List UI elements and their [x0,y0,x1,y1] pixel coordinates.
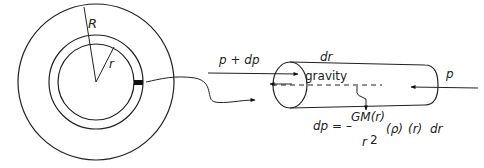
connector-arrow [146,77,255,103]
cylinder: dr gravity [272,50,438,108]
eq-differential: dr [430,122,444,136]
eq-numerator: GM(r) [351,110,385,124]
label-dr: dr [320,50,334,64]
label-p: p [445,67,454,81]
eq-lhs: dp = – [313,119,352,133]
label-R: R [88,16,97,31]
label-gravity: gravity [305,69,347,83]
arrow-p-plus-dp [208,73,298,74]
mass-element [134,80,143,85]
label-r: r [109,57,115,71]
equation: dp = – GM(r) r 2 (ρ) (r) dr [313,110,444,149]
arrow-p [411,87,478,88]
label-p-plus-dp: p + dp [218,53,260,67]
diagram-canvas: R r dr gravity p + dp p dp = – GM(r) r 2… [0,0,484,168]
eq-exponent: 2 [370,133,378,147]
eq-denominator: r [362,135,368,149]
eq-radius: (r) [408,122,422,136]
eq-density: (ρ) [386,122,403,136]
sphere: R r [18,4,174,160]
